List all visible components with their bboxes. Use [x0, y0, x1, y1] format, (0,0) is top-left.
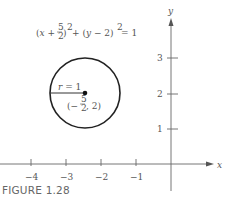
svg-text:(x +: (x + [36, 28, 55, 38]
x-axis-arrow-icon [206, 162, 214, 167]
svg-text:, 2): , 2) [86, 101, 101, 111]
x-tick-label: −1 [130, 172, 143, 182]
y-tick-label: 2 [157, 89, 163, 99]
circle-equation: (x + 5 2 ) 2 + (y − 2) 2 = 1 [36, 22, 137, 41]
x-tick-label: −2 [95, 172, 108, 182]
y-ticks [167, 58, 178, 129]
x-ticks [31, 159, 136, 166]
x-tick-label: −4 [25, 172, 39, 182]
y-axis-label: y [167, 6, 174, 16]
x-tick-label: −3 [60, 172, 74, 182]
y-tick-label: 3 [157, 53, 163, 63]
y-axis-arrow-icon [169, 18, 174, 26]
figure-caption: FIGURE 1.28 [2, 184, 70, 196]
y-tick-label: 1 [157, 124, 163, 134]
svg-text:): ) [63, 28, 67, 38]
coordinate-plane: x y −4 −3 −2 −1 1 2 3 r = 1 (− 5 2 , 2) [0, 0, 225, 202]
radius-label: r = 1 [58, 82, 81, 92]
svg-text:+ (y − 2): + (y − 2) [72, 28, 114, 38]
svg-text:= 1: = 1 [121, 28, 137, 38]
x-axis-label: x [217, 160, 222, 170]
center-label: (− 5 2 , 2) [67, 94, 101, 113]
svg-text:(−: (− [67, 101, 78, 111]
